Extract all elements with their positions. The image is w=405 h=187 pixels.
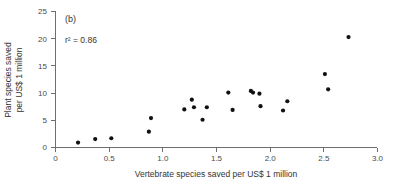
x-tick-label-1-5: 1.5: [211, 154, 223, 163]
x-tick-label-2-5: 2.5: [318, 154, 330, 163]
x-tick-label-0-5: 0.5: [104, 154, 116, 163]
data-point: [226, 90, 230, 94]
x-tick-label-2-0: 2.0: [265, 154, 277, 163]
figure-panel-b: Plant species saved per US$ 1 million 0 …: [0, 0, 405, 187]
data-point: [205, 105, 209, 109]
y-tick-label-20: 20: [38, 35, 47, 44]
y-axis-title: Plant species saved per US$ 1 million: [3, 42, 24, 118]
data-point: [258, 104, 262, 108]
data-point: [76, 141, 80, 145]
y-tick-label-25: 25: [38, 7, 47, 16]
data-point: [147, 130, 151, 134]
data-point: [257, 92, 261, 96]
data-point: [192, 105, 196, 109]
y-axis-ticks: 0 5 10 15 20 25: [38, 7, 55, 152]
data-point: [285, 99, 289, 103]
panel-label: (b): [65, 14, 76, 24]
y-tick-label-10: 10: [38, 89, 47, 98]
data-point: [326, 87, 330, 91]
x-tick-label-0: 0: [53, 154, 58, 163]
y-tick-label-15: 15: [38, 62, 47, 71]
data-point: [149, 116, 153, 120]
data-point: [190, 98, 194, 102]
data-point: [200, 118, 204, 122]
data-point: [323, 72, 327, 76]
data-points-group: [76, 35, 351, 145]
r-squared-annotation: r² = 0.86: [65, 35, 97, 45]
x-axis-ticks: 0 0.5 1.0 1.5 2.0 2.5 3.0: [53, 148, 383, 163]
data-point: [182, 107, 186, 111]
y-tick-label-0: 0: [43, 143, 48, 152]
data-point: [93, 137, 97, 141]
y-axis-title-line2: per US$ 1 million: [14, 47, 24, 112]
x-axis-title: Vertebrate species saved per US$ 1 milli…: [135, 169, 298, 179]
x-tick-label-1-0: 1.0: [157, 154, 169, 163]
data-point: [251, 90, 255, 94]
data-point: [109, 136, 113, 140]
x-tick-label-3-0: 3.0: [372, 154, 384, 163]
y-tick-label-5: 5: [43, 116, 48, 125]
y-axis-title-line1: Plant species saved: [3, 42, 13, 118]
data-point: [281, 108, 285, 112]
data-point: [231, 108, 235, 112]
scatter-plot: Plant species saved per US$ 1 million 0 …: [0, 0, 405, 187]
data-point: [346, 35, 350, 39]
